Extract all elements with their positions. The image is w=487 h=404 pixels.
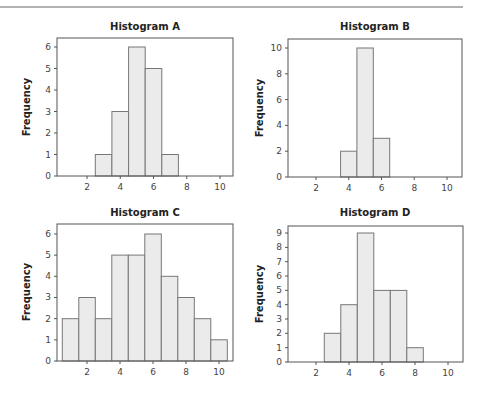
histogram-bar [145,234,162,361]
y-tick-label: 6 [45,42,51,52]
histogram-bar [407,348,424,362]
histogram-bar [162,155,179,177]
y-tick-label: 6 [45,229,51,239]
x-tick-label: 6 [151,182,157,192]
y-tick-label: 4 [45,85,51,95]
x-axis: 246810 [84,176,226,192]
y-tick-label: 4 [45,271,51,281]
y-tick-label: 2 [45,314,51,324]
y-tick-label: 1 [276,343,282,353]
y-tick-label: 10 [271,43,283,53]
y-tick-label: 0 [45,171,51,181]
y-tick-label: 8 [276,242,282,252]
histogram-bar [112,255,129,361]
x-tick-label: 4 [346,368,352,378]
y-axis: 0123456 [45,42,57,181]
y-tick-label: 5 [276,285,282,295]
chart-title: Histogram C [110,207,179,218]
histogram-bar [112,112,129,177]
x-tick-label: 2 [84,182,90,192]
histogram-bar [129,47,146,176]
x-tick-label: 4 [117,182,123,192]
bars [324,233,423,362]
x-tick-label: 6 [379,183,385,193]
y-tick-label: 0 [276,357,282,367]
histogram-bar [211,340,228,361]
y-tick-label: 1 [45,335,51,345]
x-tick-label: 8 [412,368,418,378]
y-axis-label: Frequency [21,77,32,136]
y-tick-label: 4 [276,300,282,310]
histogram-bar [357,233,374,362]
histogram-bar [128,255,145,361]
y-tick-label: 9 [276,228,282,238]
x-tick-label: 6 [379,368,385,378]
y-axis: 0246810 [271,43,288,182]
x-tick-label: 4 [117,367,123,377]
y-tick-label: 3 [45,292,51,302]
y-tick-label: 3 [45,107,51,117]
y-tick-label: 7 [276,257,282,267]
y-tick-label: 6 [276,271,282,281]
histogram-bar [95,319,112,361]
histogram-bar [357,48,373,177]
x-tick-label: 4 [346,183,352,193]
x-tick-label: 8 [411,183,417,193]
histogram-bar [145,69,162,177]
y-axis: 0123456 [45,229,57,366]
histogram-bar [79,298,96,362]
chart-title: Histogram D [340,207,410,218]
chart-title: Histogram A [110,21,180,32]
x-tick-label: 10 [441,183,453,193]
y-axis: 0123456789 [276,228,288,367]
histogram-bar [341,305,358,362]
histogram-bar [95,155,112,177]
x-axis: 246810 [84,361,225,377]
histogram-bar [194,319,211,361]
x-tick-label: 2 [84,367,90,377]
y-axis-label: Frequency [21,262,32,321]
histogram-bar [373,138,389,177]
x-axis: 246810 [313,177,453,193]
x-tick-label: 10 [213,367,225,377]
x-tick-label: 2 [313,368,319,378]
y-tick-label: 1 [45,150,51,160]
y-tick-label: 2 [276,328,282,338]
y-axis-label: Frequency [254,78,265,137]
x-tick-label: 10 [442,368,454,378]
histogram-bar [341,151,357,177]
y-tick-label: 8 [276,69,282,79]
y-tick-label: 2 [45,128,51,138]
y-tick-label: 4 [276,120,282,130]
histogram-d-panel: Histogram DFrequency0123456789246810 [254,207,463,378]
histogram-c-panel: Histogram CFrequency0123456246810 [21,207,233,377]
x-axis: 246810 [313,362,454,378]
histogram-bar [62,319,79,361]
y-axis-label: Frequency [254,264,265,323]
histogram-figure: Histogram AFrequency0123456246810Histogr… [0,0,487,404]
y-tick-label: 5 [45,64,51,74]
histogram-bar [374,290,391,362]
chart-title: Histogram B [340,21,410,32]
y-tick-label: 0 [45,356,51,366]
histogram-bar [161,276,178,361]
x-tick-label: 6 [150,367,156,377]
histogram-bar [178,298,195,362]
y-tick-label: 3 [276,314,282,324]
bars [95,47,178,176]
x-tick-label: 8 [183,367,189,377]
y-tick-label: 0 [276,172,282,182]
histogram-a-panel: Histogram AFrequency0123456246810 [21,21,233,192]
histogram-bar [324,333,341,362]
histogram-bar [390,290,407,362]
histogram-b-panel: Histogram BFrequency0246810246810 [254,21,462,193]
y-tick-label: 2 [276,146,282,156]
y-tick-label: 6 [276,95,282,105]
x-tick-label: 10 [214,182,226,192]
y-tick-label: 5 [45,250,51,260]
x-tick-label: 2 [313,183,319,193]
bars [341,48,390,177]
bars [62,234,227,361]
x-tick-label: 8 [184,182,190,192]
